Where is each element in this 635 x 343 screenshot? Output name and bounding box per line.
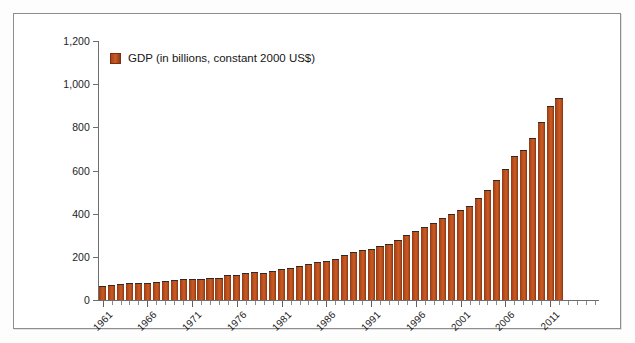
- bar: [350, 252, 357, 300]
- bar: [251, 272, 258, 300]
- x-axis-tick: [264, 301, 265, 305]
- bar: [224, 275, 231, 300]
- x-axis-tick-major: [237, 301, 238, 307]
- y-axis-tick-label: 0: [84, 294, 90, 306]
- bar: [233, 275, 240, 300]
- legend-label: GDP (in billions, constant 2000 US$): [128, 52, 315, 64]
- x-axis-tick: [514, 301, 515, 305]
- x-axis-tick: [496, 301, 497, 305]
- x-axis-tick: [291, 301, 292, 305]
- bar: [206, 278, 213, 300]
- x-axis-tick: [559, 301, 560, 305]
- x-axis-tick: [380, 301, 381, 305]
- x-axis-tick-major: [192, 301, 193, 307]
- bar: [466, 206, 473, 300]
- bar: [278, 269, 285, 300]
- x-axis-tick: [183, 301, 184, 305]
- bar-series: [99, 41, 599, 300]
- bar: [296, 266, 303, 300]
- x-axis-tick: [273, 301, 274, 305]
- x-axis-tick-major: [326, 301, 327, 307]
- bar: [323, 261, 330, 300]
- bar: [475, 198, 482, 300]
- x-axis-tick: [121, 301, 122, 305]
- bar: [403, 235, 410, 300]
- x-axis-tick-label: 1976: [225, 309, 249, 333]
- bar: [484, 190, 491, 300]
- bar: [385, 244, 392, 300]
- x-axis-tick-label: 1986: [314, 309, 338, 333]
- x-axis-tick: [434, 301, 435, 305]
- x-axis-tick-major: [371, 301, 372, 307]
- x-axis-tick: [156, 301, 157, 305]
- x-axis-tick: [407, 301, 408, 305]
- x-axis-tick: [165, 301, 166, 305]
- x-axis-tick: [479, 301, 480, 305]
- x-axis-tick: [255, 301, 256, 305]
- bar: [305, 264, 312, 300]
- bar: [520, 150, 527, 300]
- x-axis-tick: [541, 301, 542, 305]
- bar: [457, 210, 464, 300]
- x-axis-tick: [353, 301, 354, 305]
- bar: [153, 282, 160, 300]
- x-axis-tick-label: 1961: [91, 309, 115, 333]
- y-axis-tick-label: 600: [72, 165, 90, 177]
- bar: [162, 281, 169, 300]
- x-axis-tick: [112, 301, 113, 305]
- x-axis-tick: [362, 301, 363, 305]
- x-axis-tick-major: [416, 301, 417, 307]
- bar: [314, 262, 321, 300]
- x-axis-tick: [523, 301, 524, 305]
- x-axis-tick-label: 2006: [493, 309, 517, 333]
- bar: [242, 273, 249, 300]
- bar: [555, 98, 562, 300]
- x-axis-tick: [174, 301, 175, 305]
- y-axis-tick: [93, 214, 98, 215]
- bar: [368, 249, 375, 300]
- x-axis-tick: [138, 301, 139, 305]
- bar: [180, 279, 187, 300]
- bar: [197, 279, 204, 300]
- x-axis-tick-major: [147, 301, 148, 307]
- y-axis-tick: [93, 300, 98, 301]
- plot-area: 1961196619711976198119861991199620012006…: [98, 41, 599, 300]
- bar: [341, 255, 348, 300]
- x-axis-tick-label: 2001: [449, 309, 473, 333]
- bar: [171, 280, 178, 300]
- bar: [394, 240, 401, 300]
- y-axis-tick-label: 200: [72, 251, 90, 263]
- x-axis-tick: [389, 301, 390, 305]
- y-axis-tick: [93, 171, 98, 172]
- bar: [117, 284, 124, 300]
- x-axis-tick-major: [103, 301, 104, 307]
- y-axis-tick-label: 800: [72, 121, 90, 133]
- chart-frame: 02004006008001,0001,200 1961196619711976…: [13, 13, 621, 329]
- x-axis-ticks: [98, 301, 599, 307]
- x-axis-tick-label: 1981: [270, 309, 294, 333]
- x-axis-tick-major: [550, 301, 551, 307]
- y-axis-tick-label: 1,200: [63, 35, 90, 47]
- x-axis-labels: 1961196619711976198119861991199620012006…: [98, 309, 599, 343]
- bar: [493, 180, 500, 300]
- x-axis-tick-label: 2011: [539, 309, 562, 332]
- x-axis-tick: [344, 301, 345, 305]
- y-axis-tick: [93, 257, 98, 258]
- bar: [430, 223, 437, 300]
- x-axis-tick: [308, 301, 309, 305]
- x-axis-tick-label: 1991: [359, 309, 383, 333]
- bar: [332, 259, 339, 300]
- bar: [529, 138, 536, 300]
- bar: [126, 283, 133, 300]
- x-axis-tick: [586, 301, 587, 305]
- bar: [135, 283, 142, 300]
- x-axis-tick: [398, 301, 399, 305]
- y-axis-tick: [93, 84, 98, 85]
- x-axis-tick: [595, 301, 596, 305]
- bar: [538, 122, 545, 300]
- x-axis-tick: [568, 301, 569, 305]
- y-axis-tick-label: 1,000: [63, 78, 90, 90]
- x-axis-tick-label: 1996: [404, 309, 428, 333]
- bar: [412, 231, 419, 300]
- bar: [108, 285, 115, 300]
